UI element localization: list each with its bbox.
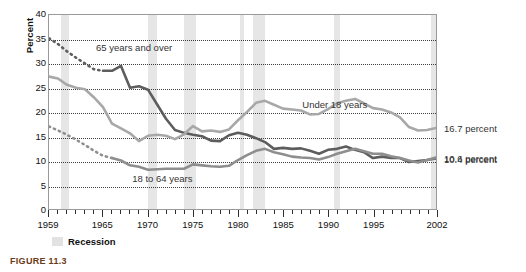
x-tick-minor <box>120 210 121 214</box>
x-tick-minor <box>383 210 384 214</box>
x-tick-minor <box>401 210 402 214</box>
x-tick-label: 1980 <box>227 219 248 230</box>
x-tick-label: 1990 <box>318 219 339 230</box>
x-tick-label: 1965 <box>92 219 113 230</box>
x-tick-minor <box>265 210 266 214</box>
legend: Recession <box>52 236 116 247</box>
x-tick-minor <box>247 210 248 214</box>
series-path <box>103 66 436 162</box>
x-tick-minor <box>57 210 58 214</box>
x-tick-major <box>437 210 438 217</box>
x-tick-minor <box>157 210 158 214</box>
x-tick-minor <box>84 210 85 214</box>
aged-18-64-value: 10.4 percent <box>444 154 497 165</box>
legend-recession-label: Recession <box>68 236 116 247</box>
y-axis-tick-labels: 0510152025303540 <box>22 0 46 224</box>
x-tick-major <box>102 210 103 217</box>
series-path <box>112 149 436 170</box>
x-tick-minor <box>419 210 420 214</box>
x-tick-minor <box>319 210 320 214</box>
x-tick-minor <box>75 210 76 214</box>
plot-area: 65 years and overUnder 18 years18 to 64 … <box>48 14 437 210</box>
x-tick-major <box>374 210 375 217</box>
series-path <box>49 77 436 142</box>
x-tick-major <box>328 210 329 217</box>
y-tick-label: 5 <box>24 181 46 191</box>
x-tick-label: 1970 <box>137 219 158 230</box>
x-tick-minor <box>138 210 139 214</box>
figure-caption: FIGURE 11.3 <box>10 256 67 266</box>
x-tick-minor <box>301 210 302 214</box>
x-tick-minor <box>175 210 176 214</box>
y-tick-label: 35 <box>24 34 46 44</box>
x-tick-label: 1985 <box>273 219 294 230</box>
y-tick-label: 15 <box>24 132 46 142</box>
x-tick-minor <box>184 210 185 214</box>
x-tick-label: 2002 <box>426 219 447 230</box>
x-tick-label: 1995 <box>363 219 384 230</box>
x-tick-minor <box>66 210 67 214</box>
y-tick-label: 30 <box>24 58 46 68</box>
x-tick-minor <box>356 210 357 214</box>
x-tick-minor <box>392 210 393 214</box>
x-tick-minor <box>220 210 221 214</box>
x-tick-minor <box>166 210 167 214</box>
x-tick-major <box>238 210 239 217</box>
x-tick-minor <box>410 210 411 214</box>
x-tick-major <box>283 210 284 217</box>
recession-swatch-icon <box>52 237 63 246</box>
x-tick-major <box>193 210 194 217</box>
label-65-and-over: 65 years and over <box>96 42 172 53</box>
y-tick-label: 0 <box>24 205 46 215</box>
x-tick-minor <box>347 210 348 214</box>
series-path <box>49 38 103 70</box>
x-tick-minor <box>93 210 94 214</box>
x-tick-minor <box>274 210 275 214</box>
x-tick-major <box>48 210 49 217</box>
x-tick-minor <box>229 210 230 214</box>
x-tick-label: 1975 <box>182 219 203 230</box>
x-tick-minor <box>365 210 366 214</box>
x-tick-minor <box>202 210 203 214</box>
label-under-18: Under 18 years <box>302 99 367 110</box>
plot-inner: 65 years and overUnder 18 years18 to 64 … <box>49 15 436 209</box>
series-path <box>49 127 112 159</box>
x-tick-major <box>148 210 149 217</box>
x-tick-minor <box>211 210 212 214</box>
x-tick-minor <box>337 210 338 214</box>
x-tick-minor <box>292 210 293 214</box>
y-tick-label: 20 <box>24 107 46 117</box>
x-tick-label: 1959 <box>37 219 58 230</box>
under-18-value: 16.7 percent <box>444 123 497 134</box>
x-tick-minor <box>310 210 311 214</box>
x-tick-minor <box>111 210 112 214</box>
x-axis: 195919651970197519801985199019952002 <box>48 210 437 218</box>
y-tick-label: 10 <box>24 156 46 166</box>
y-tick-label: 40 <box>24 9 46 19</box>
figure-container: Percent 0510152025303540 65 years and ov… <box>0 0 526 272</box>
x-tick-minor <box>428 210 429 214</box>
y-tick-label: 25 <box>24 83 46 93</box>
x-tick-minor <box>256 210 257 214</box>
label-18-to-64: 18 to 64 years <box>132 173 192 184</box>
x-tick-minor <box>129 210 130 214</box>
